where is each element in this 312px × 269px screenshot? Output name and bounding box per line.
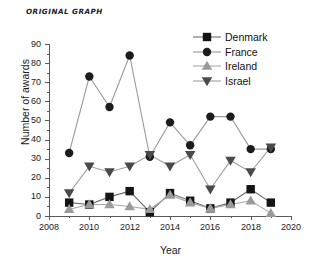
x-tick-label: 2008 [32,223,66,232]
x-tick [130,216,131,220]
data-point [185,151,196,160]
data-point [64,189,74,198]
x-tick-label: 2014 [153,223,187,232]
data-point [246,185,254,193]
data-point [104,168,115,177]
legend-marker-circle-icon [192,45,222,59]
x-tick [49,216,50,220]
data-point [203,48,211,56]
data-point [166,118,174,126]
data-point [245,168,256,177]
y-tick-label: 20 [21,173,41,182]
x-tick-label: 2012 [113,223,147,232]
data-point [246,145,254,153]
x-tick [89,216,90,220]
legend-marker-square-icon [192,30,222,44]
chart-figure: ORIGINAL GRAPH 0102030405060708090 20082… [0,0,312,269]
y-axis-title: Number of awards [19,42,31,162]
x-tick [251,216,252,220]
legend-marker-triangle-down-icon [192,74,222,88]
data-point [205,185,216,194]
legend-item-ireland[interactable]: Ireland [192,59,310,74]
y-tick-label: 10 [21,192,41,201]
data-point [186,141,194,149]
legend-item-denmark[interactable]: Denmark [192,30,310,45]
legend-label: France [222,46,258,58]
x-tick-minor [69,216,70,218]
y-tick-label: 0 [21,212,41,221]
data-point [202,61,213,70]
data-point [165,163,176,172]
x-tick-label: 2016 [193,223,227,232]
data-point [267,198,275,206]
data-point [266,208,277,217]
legend-item-israel[interactable]: Israel [192,74,310,89]
data-point [225,157,236,166]
data-point [206,112,214,120]
x-tick [210,216,211,220]
data-point [125,187,133,195]
x-tick-label: 2020 [274,223,308,232]
data-point [202,77,213,86]
data-point [65,149,73,157]
x-tick-minor [231,216,232,218]
data-point [125,51,133,59]
data-point [226,112,234,120]
data-point [85,72,93,80]
x-tick-minor [190,216,191,218]
legend-label: Ireland [222,60,257,72]
chart-caption: ORIGINAL GRAPH [26,7,103,16]
data-point [245,195,256,204]
x-tick [291,216,292,220]
x-axis-title: Year [49,244,292,256]
legend-label: Israel [222,75,251,87]
data-point [105,103,113,111]
chart-legend: DenmarkFranceIrelandIsrael [192,30,310,88]
x-tick-minor [110,216,111,218]
x-tick [170,216,171,220]
legend-item-france[interactable]: France [192,45,310,60]
data-point [203,33,211,41]
legend-label: Denmark [222,31,268,43]
x-tick-label: 2018 [234,223,268,232]
x-tick-label: 2010 [72,223,106,232]
legend-marker-triangle-up-icon [192,59,222,73]
